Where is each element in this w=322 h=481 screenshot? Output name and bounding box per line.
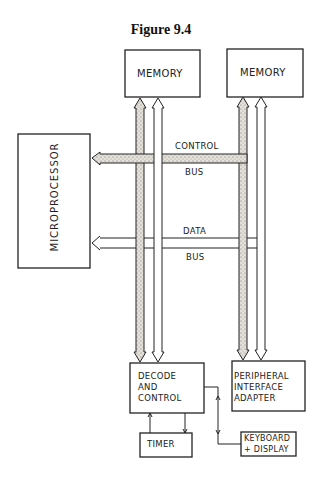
data-bus-label-bottom: BUS [186, 252, 204, 263]
control-bus-label-top: CONTROL [175, 141, 219, 152]
data-bus-label-top: DATA [183, 226, 206, 237]
memory-1-label: MEMORY [137, 68, 183, 79]
control-bus-label-bottom: BUS [185, 167, 203, 178]
pia-label-2: INTERFACE [234, 382, 283, 393]
pia-label-3: ADAPTER [234, 393, 276, 404]
control-bus [92, 152, 247, 165]
decode-label-1: DECODE [138, 371, 176, 382]
decode-label-3: CONTROL [138, 393, 182, 404]
address-bus-2 [237, 97, 249, 360]
decode-label-2: AND [138, 382, 158, 393]
timer-label: TIMER [147, 439, 175, 450]
data-bus-vertical-2 [255, 97, 267, 360]
pia-label-1: PERIPHERAL [234, 371, 289, 382]
keyboard-label-1: KEYBOARD [244, 433, 290, 444]
memory-2-label: MEMORY [240, 67, 286, 78]
timer-to-decode-line [148, 413, 152, 433]
keyboard-label-2: + DISPLAY [244, 444, 289, 455]
decode-to-timer-line [183, 413, 187, 433]
data-bus-horizontal [100, 238, 257, 248]
microprocessor-label: MICROPROCESSOR [49, 148, 60, 252]
data-bus-vertical-1 [152, 98, 164, 362]
address-bus-1 [134, 98, 146, 362]
